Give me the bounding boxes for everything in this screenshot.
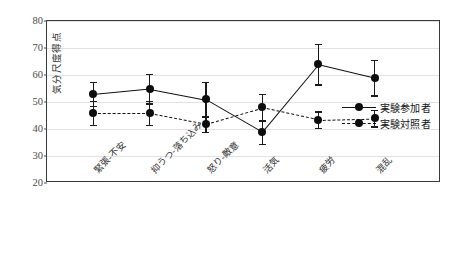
legend-item-label: 実験対照者 xyxy=(380,116,432,131)
gridline xyxy=(47,48,439,49)
y-tick-mark xyxy=(44,156,47,157)
series-line-segment xyxy=(262,107,318,120)
y-tick-label: 70 xyxy=(33,43,44,54)
error-bar-cap xyxy=(146,101,153,102)
figure-caption xyxy=(0,258,459,268)
error-bar-cap xyxy=(146,74,153,75)
data-point-marker xyxy=(314,116,322,124)
data-point-marker xyxy=(89,109,97,117)
error-bar-cap xyxy=(90,82,97,83)
data-point-marker xyxy=(258,103,266,111)
y-tick-label: 80 xyxy=(33,16,44,27)
y-tick-label: 30 xyxy=(33,151,44,162)
error-bar-cap xyxy=(90,125,97,126)
error-bar-cap xyxy=(259,121,266,122)
legend-marker-icon xyxy=(342,103,376,112)
error-bar-cap xyxy=(371,60,378,61)
data-point-marker xyxy=(314,60,322,68)
y-tick-label: 50 xyxy=(33,97,44,108)
y-tick-label: 60 xyxy=(33,70,44,81)
series-line-segment xyxy=(318,64,375,78)
y-tick-label: 40 xyxy=(33,124,44,135)
legend: 実験参加者 実験対照者 xyxy=(340,97,434,133)
data-point-marker xyxy=(258,128,266,136)
series-line-segment xyxy=(93,113,149,114)
gridline xyxy=(47,21,439,22)
legend-marker-icon xyxy=(342,119,376,128)
error-bar-cap xyxy=(315,84,322,85)
error-bar-cap xyxy=(315,111,322,112)
series-line-segment xyxy=(206,107,263,124)
legend-item: 実験参加者 xyxy=(342,99,432,115)
y-axis-title: 気分尺度得点 xyxy=(49,3,63,123)
y-tick-mark xyxy=(44,75,47,76)
gridline xyxy=(47,75,439,76)
series-line-segment xyxy=(149,89,205,101)
legend-item-label: 実験参加者 xyxy=(380,100,432,115)
y-tick-mark xyxy=(44,183,47,184)
y-tick-mark xyxy=(44,48,47,49)
y-tick-mark xyxy=(44,102,47,103)
error-bar-cap xyxy=(202,132,209,133)
y-tick-label: 20 xyxy=(33,178,44,189)
error-bar-cap xyxy=(146,125,153,126)
data-point-marker xyxy=(89,90,97,98)
error-bar-cap xyxy=(315,128,322,129)
error-bar-cap xyxy=(259,94,266,95)
error-bar-cap xyxy=(90,101,97,102)
error-bar-cap xyxy=(259,144,266,145)
data-point-marker xyxy=(146,85,154,93)
data-point-marker xyxy=(371,74,379,82)
y-tick-mark xyxy=(44,129,47,130)
error-bar-cap xyxy=(202,116,209,117)
series-line-segment xyxy=(93,88,149,94)
error-bar-cap xyxy=(315,44,322,45)
data-point-marker xyxy=(146,109,154,117)
figure: 20304050607080 実験参加者 実験対照者 気分尺度得点 緊張-不安抑… xyxy=(0,0,459,268)
legend-item: 実験対照者 xyxy=(342,115,432,131)
error-bar-cap xyxy=(202,82,209,83)
y-tick-mark xyxy=(44,21,47,22)
